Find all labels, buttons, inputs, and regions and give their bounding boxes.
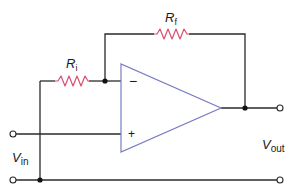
inverting-input-sign: − (129, 73, 137, 89)
junction-dot-inverting (102, 78, 107, 83)
terminal-vin-top (10, 131, 16, 137)
junction-dot-output (242, 105, 247, 110)
resistor-ri (55, 76, 89, 86)
terminal-vin-bottom (10, 177, 16, 183)
op-amp-circuit-diagram: − + Rf Ri Vin Vout (0, 0, 290, 192)
resistor-rf (154, 29, 189, 39)
label-rf: Rf (165, 10, 177, 27)
terminal-vout-bottom (277, 177, 283, 183)
label-vout: Vout (262, 137, 285, 154)
label-vin: Vin (12, 150, 28, 167)
terminal-vout-top (277, 105, 283, 111)
label-ri: Ri (66, 56, 77, 73)
wires (16, 34, 277, 180)
junction-dot-ground (37, 177, 42, 182)
feedback-wire-right (189, 34, 245, 108)
noninverting-input-sign: + (128, 127, 135, 141)
